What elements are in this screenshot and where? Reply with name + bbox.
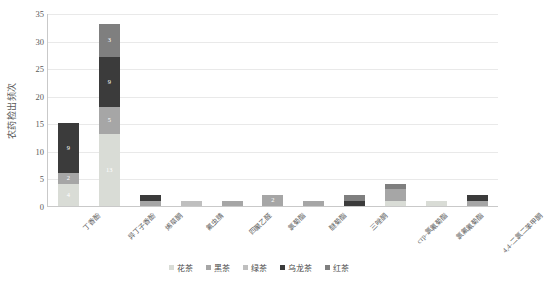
legend-item[interactable]: 红茶 bbox=[325, 262, 349, 273]
y-tick-label: 15 bbox=[36, 119, 45, 129]
x-tick-label: 氟虫腈 bbox=[203, 210, 225, 232]
bar-column[interactable] bbox=[293, 14, 334, 206]
x-tick-label: 氯氟氰菊酯 bbox=[453, 210, 485, 242]
bar-stack[interactable] bbox=[385, 184, 406, 206]
bar-column[interactable]: 13593 bbox=[89, 14, 130, 206]
chart-legend: 花茶黑茶绿茶乌龙茶红茶 bbox=[0, 262, 517, 273]
x-tick-label: стр-氯氰菊酯 bbox=[413, 210, 448, 245]
x-tick-label: 氯菊酯 bbox=[285, 210, 307, 232]
bar-value-label: 2 bbox=[67, 175, 70, 182]
bar-segment[interactable]: 13 bbox=[99, 134, 120, 206]
bar-column[interactable] bbox=[130, 14, 171, 206]
bar-segment[interactable]: 3 bbox=[99, 24, 120, 57]
x-axis-labels: 丁香酚异丁子香酚烯草酮氟虫腈四聚乙醛氯菊酯醚菊酯三唑酮стр-氯氰菊酯氯氟氰菊酯… bbox=[47, 208, 498, 258]
y-axis-title: 农药检出频次 bbox=[5, 46, 18, 176]
bar-column[interactable] bbox=[334, 14, 375, 206]
bar-segment[interactable] bbox=[385, 201, 406, 207]
bar-segment[interactable]: 2 bbox=[262, 195, 283, 206]
y-tick-label: 10 bbox=[36, 147, 45, 157]
bar-value-label: 4 bbox=[67, 192, 70, 199]
x-tick-label: 四聚乙醛 bbox=[246, 210, 273, 237]
bar-value-label: 5 bbox=[108, 117, 111, 124]
bar-segment[interactable] bbox=[222, 201, 243, 207]
bar-stack[interactable]: 13593 bbox=[99, 24, 120, 206]
bar-value-label: 3 bbox=[108, 37, 111, 44]
bar-value-label: 9 bbox=[108, 79, 111, 86]
bar-segment[interactable] bbox=[140, 201, 161, 207]
legend-label: 红茶 bbox=[333, 262, 349, 273]
x-tick-label: 三唑酮 bbox=[367, 210, 389, 232]
legend-item[interactable]: 花茶 bbox=[169, 262, 193, 273]
legend-item[interactable]: 绿茶 bbox=[243, 262, 267, 273]
plot-area: 429135932 bbox=[47, 14, 498, 207]
y-tick-label: 5 bbox=[40, 174, 44, 184]
y-tick-label: 20 bbox=[36, 92, 45, 102]
legend-swatch-icon bbox=[325, 265, 330, 270]
bar-stack[interactable] bbox=[222, 201, 243, 207]
bar-segment[interactable]: 9 bbox=[99, 57, 120, 107]
bar-column[interactable]: 2 bbox=[253, 14, 294, 206]
bar-series-layer: 429135932 bbox=[48, 14, 498, 206]
legend-swatch-icon bbox=[280, 265, 285, 270]
bar-stack[interactable] bbox=[181, 201, 202, 207]
legend-label: 绿茶 bbox=[251, 262, 267, 273]
bar-column[interactable]: 429 bbox=[48, 14, 89, 206]
bar-stack[interactable]: 429 bbox=[58, 123, 79, 206]
bar-stack[interactable] bbox=[467, 195, 488, 206]
legend-swatch-icon bbox=[206, 265, 211, 270]
bar-stack[interactable] bbox=[140, 195, 161, 206]
y-tick-label: 0 bbox=[40, 202, 44, 212]
bar-stack[interactable] bbox=[426, 201, 447, 207]
bar-column[interactable] bbox=[416, 14, 457, 206]
bar-column[interactable] bbox=[457, 14, 498, 206]
bar-segment[interactable]: 4 bbox=[58, 184, 79, 206]
bar-segment[interactable]: 5 bbox=[99, 107, 120, 135]
bar-value-label: 13 bbox=[106, 167, 113, 174]
bar-segment[interactable]: 2 bbox=[58, 173, 79, 184]
bar-segment[interactable]: 9 bbox=[58, 123, 79, 173]
bar-segment[interactable] bbox=[426, 201, 447, 207]
bar-stack[interactable] bbox=[303, 201, 324, 207]
legend-label: 黑茶 bbox=[214, 262, 230, 273]
legend-label: 乌龙茶 bbox=[288, 262, 312, 273]
bar-segment[interactable] bbox=[303, 201, 324, 207]
y-tick-label: 35 bbox=[36, 9, 45, 19]
legend-swatch-icon bbox=[169, 265, 174, 270]
bar-column[interactable] bbox=[212, 14, 253, 206]
y-tick-label: 30 bbox=[36, 37, 45, 47]
x-tick-label: 异丁子香酚 bbox=[125, 210, 157, 242]
x-tick-label: 4,4-二氯二苯甲酮 bbox=[499, 210, 544, 255]
x-tick-label: 丁香酚 bbox=[80, 210, 102, 232]
legend-swatch-icon bbox=[243, 265, 248, 270]
bar-column[interactable] bbox=[375, 14, 416, 206]
y-axis-ticks: 05101520253035 bbox=[18, 14, 44, 207]
bar-value-label: 9 bbox=[67, 145, 70, 152]
bar-segment[interactable] bbox=[467, 201, 488, 207]
y-tick-label: 25 bbox=[36, 64, 45, 74]
legend-item[interactable]: 黑茶 bbox=[206, 262, 230, 273]
bar-segment[interactable] bbox=[181, 201, 202, 207]
bar-column[interactable] bbox=[171, 14, 212, 206]
bar-stack[interactable]: 2 bbox=[262, 195, 283, 206]
legend-item[interactable]: 乌龙茶 bbox=[280, 262, 312, 273]
bar-segment[interactable] bbox=[385, 189, 406, 200]
bar-segment[interactable] bbox=[344, 201, 365, 207]
legend-label: 花茶 bbox=[177, 262, 193, 273]
x-tick-label: 醚菊酯 bbox=[326, 210, 348, 232]
bar-value-label: 2 bbox=[271, 197, 274, 204]
bar-stack[interactable] bbox=[344, 195, 365, 206]
x-tick-label: 烯草酮 bbox=[162, 210, 184, 232]
